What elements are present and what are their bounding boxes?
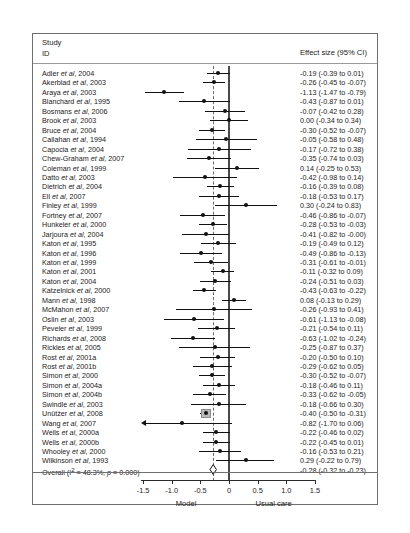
overall-effect-size-value: -0.28 (-0.32 to -0.23): [300, 465, 366, 476]
x-axis-tick-label: 1.5: [310, 486, 320, 495]
overall-row: Overall (I2 = 48.3%, p = 0.000)-0.28 (-0…: [0, 465, 410, 476]
x-axis-tick: [315, 480, 316, 484]
rows-layer: Adler et al, 2004-0.19 (-0.39 to 0.01)Ak…: [0, 0, 410, 533]
x-axis-tick-label: -0.5: [194, 486, 207, 495]
table-bottom-rule: [32, 472, 378, 473]
x-axis-tick: [143, 480, 144, 484]
x-axis-tick: [286, 480, 287, 484]
x-axis-tick-label: 1.0: [281, 486, 291, 495]
axis-label-usual-care: Usual care: [256, 499, 292, 508]
x-axis-tick: [172, 480, 173, 484]
axis-label-model: Model: [176, 499, 197, 508]
x-axis-tick: [229, 480, 230, 484]
x-axis-tick-label: -1.5: [137, 486, 150, 495]
x-axis-tick-label: 0: [227, 486, 231, 495]
x-axis-tick-label: 0.5: [253, 486, 263, 495]
x-axis-tick-label: -1.0: [165, 486, 178, 495]
x-axis-tick: [200, 480, 201, 484]
x-axis-tick: [258, 480, 259, 484]
forest-plot-figure: Study ID Effect size (95% CI) Adler et a…: [0, 0, 410, 533]
